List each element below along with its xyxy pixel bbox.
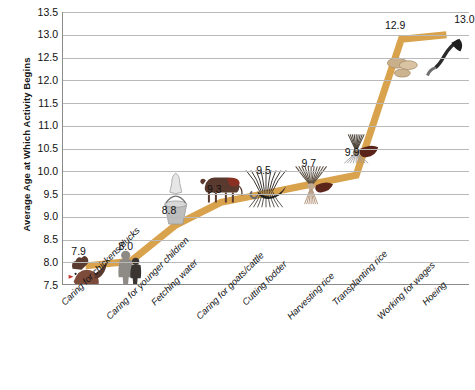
- x-category-label: Harvesting rice: [285, 271, 336, 322]
- x-category-label: Working for wages: [376, 260, 438, 322]
- x-category-label: Transplanting rice: [330, 249, 389, 308]
- x-category-label: Hoeing: [421, 280, 449, 308]
